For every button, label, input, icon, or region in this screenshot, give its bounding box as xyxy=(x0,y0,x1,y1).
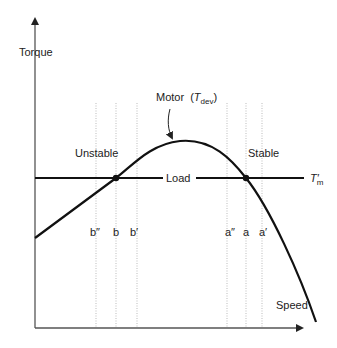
label-a1: a′ xyxy=(259,226,267,238)
label-b2: b″ xyxy=(90,226,100,238)
label-b: b xyxy=(113,226,119,238)
y-axis-label: Torque xyxy=(19,46,53,58)
stable-label: Stable xyxy=(248,147,279,159)
x-axis-label: Speed xyxy=(276,299,308,311)
motor-curve xyxy=(35,141,316,322)
torque-speed-diagram: Torque Motor (Tdev) Unstable Stable Load… xyxy=(0,0,337,348)
operating-point-b xyxy=(113,175,119,181)
operating-point-a xyxy=(243,175,249,181)
tm-label: T′m xyxy=(310,172,324,187)
unstable-label: Unstable xyxy=(75,147,118,159)
motor-label: Motor (Tdev) xyxy=(156,91,217,106)
label-a: a xyxy=(243,226,250,238)
motor-pointer-arrow xyxy=(168,109,172,138)
label-b1: b′ xyxy=(130,226,138,238)
reference-lines xyxy=(96,103,262,328)
label-a2: a″ xyxy=(225,226,235,238)
load-label: Load xyxy=(166,172,190,184)
